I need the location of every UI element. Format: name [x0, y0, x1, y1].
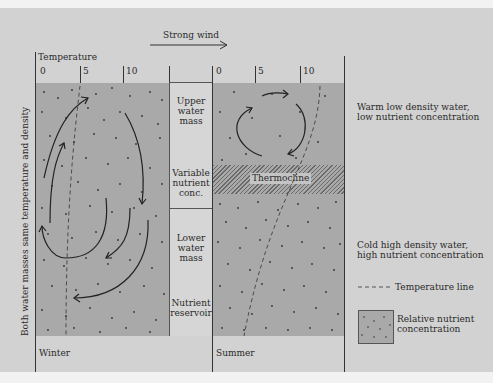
- diagram-canvas: Strong wind Temperature 0 5 10 Upper wat…: [0, 8, 493, 372]
- legend-nutrient: Relative nutrient concentration: [397, 314, 487, 334]
